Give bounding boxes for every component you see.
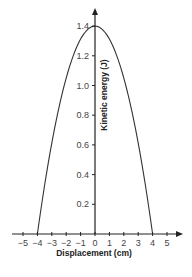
- y-axis-title: Kinetic energy (J): [99, 59, 109, 130]
- svg-text:5: 5: [164, 238, 169, 248]
- svg-text:−1: −1: [75, 238, 85, 248]
- svg-text:−3: −3: [47, 238, 57, 248]
- svg-text:0.6: 0.6: [76, 140, 89, 150]
- y-axis-ticks: 0.20.40.60.81.01.21.4: [76, 21, 95, 209]
- svg-text:0.8: 0.8: [76, 110, 89, 120]
- svg-text:−4: −4: [32, 238, 42, 248]
- svg-text:0.2: 0.2: [76, 199, 89, 209]
- svg-text:4: 4: [150, 238, 155, 248]
- kinetic-energy-chart: −5−4−3−2−1012345 0.20.40.60.81.01.21.4 D…: [0, 0, 192, 277]
- svg-text:−2: −2: [61, 238, 71, 248]
- svg-text:1.2: 1.2: [76, 51, 89, 61]
- x-axis-title: Displacement (cm): [56, 248, 132, 258]
- svg-text:0: 0: [92, 238, 97, 248]
- svg-text:3: 3: [136, 238, 141, 248]
- svg-text:1.4: 1.4: [76, 21, 89, 31]
- svg-text:0.4: 0.4: [76, 170, 89, 180]
- svg-text:−5: −5: [18, 238, 28, 248]
- svg-text:1: 1: [107, 238, 112, 248]
- svg-text:1.0: 1.0: [76, 81, 89, 91]
- svg-text:2: 2: [121, 238, 126, 248]
- axes: [12, 8, 183, 237]
